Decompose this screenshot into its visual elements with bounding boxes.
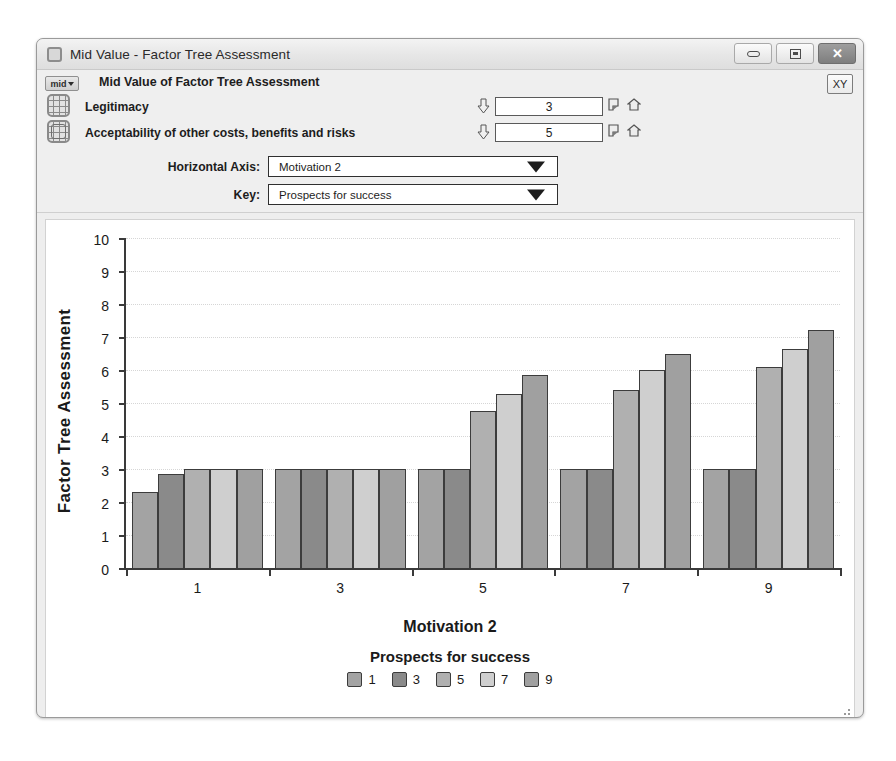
legend-item[interactable]: 9 bbox=[524, 672, 552, 687]
bar[interactable] bbox=[158, 474, 184, 568]
legend-item[interactable]: 5 bbox=[436, 672, 464, 687]
criterion-label-2: Acceptability of other costs, benefits a… bbox=[85, 126, 355, 140]
criterion-value-2: 5 bbox=[546, 126, 553, 140]
key-select[interactable]: Prospects for success bbox=[268, 184, 558, 205]
legend-items: 13579 bbox=[46, 672, 854, 687]
maximize-button[interactable] bbox=[776, 43, 814, 64]
y-axis-tick-label: 8 bbox=[101, 298, 109, 314]
window-controls: ✕ bbox=[734, 43, 856, 64]
bar[interactable] bbox=[560, 469, 586, 568]
close-button[interactable]: ✕ bbox=[818, 43, 856, 64]
bar[interactable] bbox=[613, 390, 639, 568]
criterion-value-input-1[interactable]: 3 bbox=[495, 97, 603, 116]
bar[interactable] bbox=[444, 469, 470, 568]
criterion-value-input-2[interactable]: 5 bbox=[495, 123, 603, 142]
flag-icon-2[interactable] bbox=[607, 124, 621, 138]
mid-dropdown-label: mid bbox=[50, 79, 66, 89]
bar[interactable] bbox=[353, 469, 379, 568]
legend-swatch bbox=[436, 672, 451, 687]
bar-group bbox=[269, 238, 412, 568]
minimize-icon bbox=[747, 51, 760, 57]
bar[interactable] bbox=[808, 330, 834, 568]
y-axis-label: Factor Tree Assessment bbox=[50, 220, 80, 602]
y-axis-tick: 4 bbox=[119, 436, 126, 438]
panel-heading: Mid Value of Factor Tree Assessment bbox=[99, 75, 319, 89]
legend-label: 5 bbox=[457, 672, 464, 687]
bar[interactable] bbox=[587, 469, 613, 568]
bar[interactable] bbox=[703, 469, 729, 568]
home-icon-2[interactable] bbox=[627, 124, 641, 138]
x-axis-tick-label: 7 bbox=[622, 580, 630, 596]
bar[interactable] bbox=[496, 394, 522, 568]
y-axis-tick: 9 bbox=[119, 271, 126, 273]
y-axis-tick-label: 4 bbox=[101, 430, 109, 446]
y-axis-tick-label: 5 bbox=[101, 397, 109, 413]
legend-label: 1 bbox=[368, 672, 375, 687]
chevron-down-icon-horizontal-axis bbox=[527, 161, 545, 172]
legend-item[interactable]: 1 bbox=[347, 672, 375, 687]
x-axis-ticks: 13579 bbox=[126, 568, 840, 612]
minimize-button[interactable] bbox=[734, 43, 772, 64]
down-arrow-icon-1[interactable] bbox=[477, 98, 490, 114]
legend-swatch bbox=[480, 672, 495, 687]
bar[interactable] bbox=[379, 469, 405, 568]
bar[interactable] bbox=[301, 469, 327, 568]
criterion-grid-icon-1[interactable] bbox=[47, 94, 70, 117]
bar-groups bbox=[126, 238, 840, 568]
bar[interactable] bbox=[237, 469, 263, 568]
bar[interactable] bbox=[327, 469, 353, 568]
y-axis-tick-label: 6 bbox=[101, 364, 109, 380]
legend-swatch bbox=[392, 672, 407, 687]
bar[interactable] bbox=[132, 492, 158, 568]
x-axis-tick bbox=[554, 568, 556, 576]
mid-dropdown-button[interactable]: mid bbox=[45, 76, 79, 91]
application-window: Mid Value - Factor Tree Assessment ✕ mid… bbox=[36, 38, 864, 718]
y-axis-tick: 5 bbox=[119, 403, 126, 405]
control-panel: mid Mid Value of Factor Tree Assessment … bbox=[37, 70, 863, 213]
x-axis-tick-label: 5 bbox=[479, 580, 487, 596]
criterion-grid-icon-2[interactable] bbox=[47, 120, 70, 143]
y-axis-tick: 3 bbox=[119, 469, 126, 471]
x-axis-tick-label: 1 bbox=[193, 580, 201, 596]
screenshot-root: Mid Value - Factor Tree Assessment ✕ mid… bbox=[0, 0, 896, 761]
home-icon-1[interactable] bbox=[627, 98, 641, 112]
legend-swatch bbox=[524, 672, 539, 687]
bar[interactable] bbox=[210, 469, 236, 568]
y-axis-tick-label: 0 bbox=[101, 562, 109, 578]
resize-grip[interactable] bbox=[838, 707, 850, 718]
bar[interactable] bbox=[522, 375, 548, 568]
bar[interactable] bbox=[756, 367, 782, 568]
legend: Prospects for success 13579 bbox=[46, 648, 854, 687]
flag-icon-1[interactable] bbox=[607, 98, 621, 112]
bar[interactable] bbox=[782, 349, 808, 568]
title-bar[interactable]: Mid Value - Factor Tree Assessment ✕ bbox=[37, 39, 863, 70]
key-label: Key: bbox=[142, 188, 268, 202]
xy-toggle-button[interactable]: XY bbox=[827, 74, 853, 94]
bar[interactable] bbox=[729, 469, 755, 568]
legend-item[interactable]: 7 bbox=[480, 672, 508, 687]
x-axis-tick bbox=[126, 568, 128, 576]
y-axis-tick-label: 10 bbox=[93, 232, 109, 248]
bar-group bbox=[697, 238, 840, 568]
bar[interactable] bbox=[639, 370, 665, 568]
x-axis-tick-label: 9 bbox=[765, 580, 773, 596]
legend-item[interactable]: 3 bbox=[392, 672, 420, 687]
legend-label: 9 bbox=[545, 672, 552, 687]
horizontal-axis-select[interactable]: Motivation 2 bbox=[268, 156, 558, 177]
x-axis-tick bbox=[697, 568, 699, 576]
bar-group bbox=[412, 238, 555, 568]
bar[interactable] bbox=[184, 469, 210, 568]
bar[interactable] bbox=[665, 354, 691, 569]
down-arrow-icon-2[interactable] bbox=[477, 124, 490, 140]
legend-title: Prospects for success bbox=[46, 648, 854, 665]
key-row: Key: Prospects for success bbox=[142, 184, 558, 205]
criterion-grid-icon-2-inner bbox=[51, 124, 66, 139]
bar-group bbox=[126, 238, 269, 568]
bar[interactable] bbox=[418, 469, 444, 568]
y-axis-tick: 10 bbox=[119, 238, 126, 240]
y-axis-tick-label: 2 bbox=[101, 496, 109, 512]
bar[interactable] bbox=[470, 411, 496, 568]
bar[interactable] bbox=[275, 469, 301, 568]
criterion-row-1: Legitimacy bbox=[85, 96, 149, 117]
chevron-down-icon-key bbox=[527, 189, 545, 200]
